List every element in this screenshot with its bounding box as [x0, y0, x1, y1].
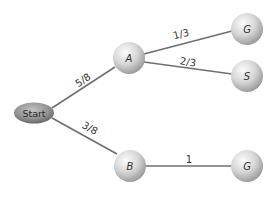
edge-label-start-b: 3/8: [80, 119, 99, 136]
node-a: A: [113, 42, 145, 74]
node-a-g-label: G: [243, 24, 251, 35]
node-b-g: G: [231, 150, 263, 182]
node-b-label: B: [127, 161, 134, 172]
probability-tree-diagram: 5/8 3/8 1/3 2/3 1 Start A B G S G: [0, 0, 280, 199]
node-b: B: [114, 150, 146, 182]
edge-label-a-g: 1/3: [172, 27, 190, 42]
node-a-s-label: S: [244, 71, 251, 82]
edge-label-a-s: 2/3: [179, 55, 196, 68]
node-b-g-label: G: [243, 161, 251, 172]
edge-label-b-g: 1: [186, 154, 192, 165]
node-a-s: S: [231, 60, 263, 92]
node-a-label: A: [125, 53, 133, 64]
node-start-label: Start: [22, 108, 45, 119]
node-start: Start: [14, 103, 54, 124]
node-a-g: G: [231, 13, 263, 45]
edge-label-start-a: 5/8: [73, 71, 92, 89]
